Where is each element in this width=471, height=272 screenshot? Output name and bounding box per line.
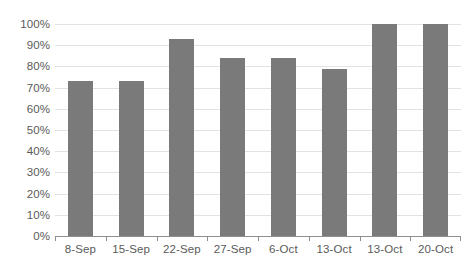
x-axis-tick — [106, 236, 107, 241]
y-axis-tick-label: 0% — [2, 230, 50, 242]
y-axis-tick-label: 40% — [2, 145, 50, 157]
y-axis-tick-label: 80% — [2, 60, 50, 72]
y-axis-tick-label: 100% — [2, 18, 50, 30]
x-axis-category-label: 20-Oct — [406, 243, 466, 255]
bar — [169, 39, 194, 236]
x-axis-tick — [410, 236, 411, 241]
bar-chart: 0%10%20%30%40%50%60%70%80%90%100% 8-Sep1… — [0, 0, 471, 272]
bar — [119, 81, 144, 236]
x-axis-tick — [157, 236, 158, 241]
y-axis-tick-label: 20% — [2, 188, 50, 200]
bar — [322, 69, 347, 236]
bar — [271, 58, 296, 236]
x-axis-tick — [55, 236, 56, 241]
bar — [423, 24, 448, 236]
y-axis-tick-label: 70% — [2, 82, 50, 94]
x-axis-tick — [309, 236, 310, 241]
bar — [372, 24, 397, 236]
x-axis-ticks — [55, 236, 461, 241]
y-axis-tick-label: 60% — [2, 103, 50, 115]
y-axis-tick-label: 30% — [2, 166, 50, 178]
y-axis-labels: 0%10%20%30%40%50%60%70%80%90%100% — [0, 0, 50, 272]
x-axis-tick — [258, 236, 259, 241]
y-axis-tick-label: 50% — [2, 124, 50, 136]
x-axis-tick — [360, 236, 361, 241]
x-axis-tick — [460, 236, 461, 241]
bar — [68, 81, 93, 236]
y-axis-tick-label: 90% — [2, 39, 50, 51]
x-axis-tick — [207, 236, 208, 241]
bar-series — [55, 24, 461, 236]
y-axis-tick-label: 10% — [2, 209, 50, 221]
plot-area — [55, 24, 461, 236]
bar — [220, 58, 245, 236]
x-axis-labels: 8-Sep15-Sep22-Sep27-Sep6-Oct13-Oct13-Oct… — [55, 243, 461, 265]
